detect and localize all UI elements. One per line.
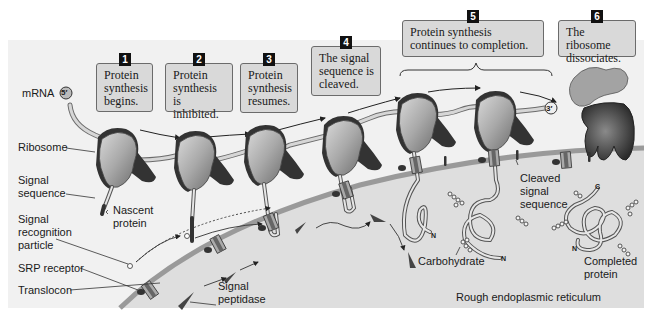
label-peptidase-1: Signal <box>218 280 249 293</box>
step-box-3: 3 Protein synthesis resumes. <box>240 63 298 113</box>
step-box-5: 5 Protein synthesis continues to complet… <box>402 20 544 57</box>
label-nascent-2: protein <box>113 217 147 230</box>
step-badge-4: 4 <box>340 36 352 49</box>
label-signal-sequence-1: Signal <box>18 174 49 187</box>
label-cleaved-3: sequence <box>520 198 568 211</box>
label-rough-er: Rough endoplasmic reticulum <box>456 291 601 304</box>
step-text-4: The signal sequence is cleaved. <box>319 52 374 91</box>
label-signal-sequence-2: sequence <box>18 187 66 200</box>
step-badge-5: 5 <box>467 10 479 23</box>
label-carbohydrate: Carbohydrate <box>418 255 485 268</box>
step-box-1: 1 Protein synthesis begins. <box>96 63 153 112</box>
label-cleaved-1: Cleaved <box>520 172 560 185</box>
label-translocon: Translocon <box>18 284 72 297</box>
step-badge-1: 1 <box>119 53 131 66</box>
step-text-6: The ribosome dissociates. <box>566 26 629 65</box>
step-text-5: Protein synthesis continues to completio… <box>410 26 537 52</box>
three-prime-label: 3′ <box>546 102 552 115</box>
n-terminus-1: N <box>431 229 436 242</box>
step-badge-2: 2 <box>193 53 205 66</box>
label-completed-2: protein <box>584 268 618 281</box>
step-box-6: 6 The ribosome dissociates. <box>558 20 636 57</box>
label-srp-receptor: SRP receptor <box>18 262 84 275</box>
label-mrna: mRNA <box>22 87 54 100</box>
n-terminus-2: N <box>501 252 506 265</box>
step-box-4: 4 The signal sequence is cleaved. <box>311 46 381 96</box>
er-targeting-diagram: 1 Protein synthesis begins. 2 Protein sy… <box>0 0 652 317</box>
label-srp-1: Signal <box>18 213 49 226</box>
step-badge-6: 6 <box>591 10 603 23</box>
label-srp-3: particle <box>18 239 53 252</box>
step-text-1: Protein synthesis begins. <box>104 69 146 108</box>
n-terminus-3: N <box>572 242 577 255</box>
c-terminus: C <box>595 180 600 193</box>
label-srp-2: recognition <box>18 226 72 239</box>
step-text-2: Protein synthesis is inhibited. <box>173 69 226 121</box>
step-badge-3: 3 <box>263 53 275 66</box>
label-ribosome: Ribosome <box>18 141 68 154</box>
step-box-2: 2 Protein synthesis is inhibited. <box>165 63 233 112</box>
label-completed-1: Completed <box>584 255 637 268</box>
srp-icon <box>128 264 133 269</box>
five-prime-label: 5′ <box>61 86 67 99</box>
label-cleaved-2: signal <box>520 185 549 198</box>
large-subunit-dissociated <box>582 103 635 160</box>
step-text-3: Protein synthesis resumes. <box>248 69 291 108</box>
label-peptidase-2: peptidase <box>218 293 266 306</box>
label-nascent-1: Nascent <box>113 204 153 217</box>
